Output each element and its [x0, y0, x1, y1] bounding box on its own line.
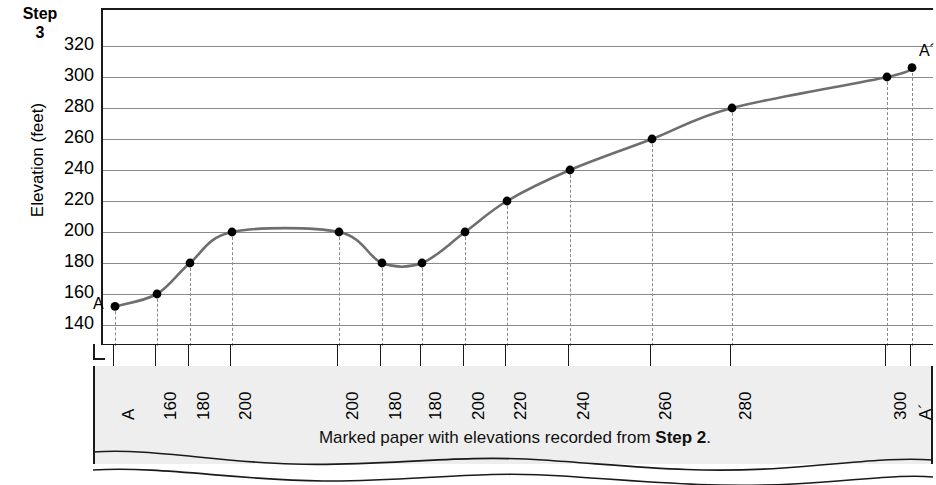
x-tick [337, 344, 338, 366]
x-tick-label: A´ [916, 403, 936, 420]
data-point [883, 73, 892, 82]
x-tick [380, 344, 381, 366]
y-tick-label: 280 [64, 97, 94, 115]
data-point [503, 197, 512, 206]
data-point [566, 166, 575, 175]
y-tick-label: 300 [64, 66, 94, 84]
x-axis [101, 344, 933, 366]
y-tick-label: 140 [64, 314, 94, 332]
data-point [418, 259, 427, 268]
x-tick [188, 344, 189, 366]
x-tick-label: 160 [161, 392, 181, 420]
y-tick-label: 220 [64, 190, 94, 208]
y-tick-label: 240 [64, 159, 94, 177]
data-point [228, 228, 237, 237]
data-point [908, 63, 917, 72]
x-tick [650, 344, 651, 366]
x-tick [113, 344, 114, 366]
x-tick-label: 180 [426, 392, 446, 420]
x-tick [420, 344, 421, 366]
x-tick [463, 344, 464, 366]
y-tick-label: 320 [64, 35, 94, 53]
x-tick-label: 180 [386, 392, 406, 420]
y-tick-label: 200 [64, 221, 94, 239]
y-tick-label: 180 [64, 252, 94, 270]
x-tick-label: 200 [343, 392, 363, 420]
label-point-a-prime: A´ [919, 42, 935, 60]
data-point [111, 302, 120, 311]
data-point [648, 135, 657, 144]
data-point [461, 228, 470, 237]
label-point-a: A [93, 295, 104, 313]
y-tick-label: 260 [64, 128, 94, 146]
torn-paper-edge [93, 440, 933, 485]
x-tick [885, 344, 886, 366]
y-tick-label: 160 [64, 283, 94, 301]
plot-area: AA´ [101, 8, 933, 344]
x-axis-line [101, 344, 933, 345]
data-point [378, 259, 387, 268]
x-tick [910, 344, 911, 366]
x-tick-label: A [119, 409, 139, 420]
x-tick-label: 220 [511, 392, 531, 420]
data-point [728, 104, 737, 113]
x-tick-label: 260 [656, 392, 676, 420]
x-tick-label: 300 [891, 392, 911, 420]
x-tick [505, 344, 506, 366]
y-axis-tick-labels: 320300280260240220200180160140 [0, 0, 100, 360]
x-tick [730, 344, 731, 366]
data-point [335, 228, 344, 237]
x-tick [155, 344, 156, 366]
elevation-profile-curve [103, 10, 935, 346]
x-tick-label: 200 [236, 392, 256, 420]
profile-line [115, 68, 912, 307]
data-point [186, 259, 195, 268]
x-tick-label: 280 [736, 392, 756, 420]
x-tick-label: 240 [574, 392, 594, 420]
x-tick-label: 200 [469, 392, 489, 420]
data-point [153, 290, 162, 299]
x-tick [230, 344, 231, 366]
x-tick [568, 344, 569, 366]
x-tick-label: 180 [194, 392, 214, 420]
